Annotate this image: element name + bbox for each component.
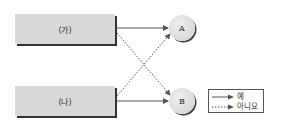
diagram-canvas: (가) (나) A B 예 아니요: [0, 0, 284, 126]
node-a: A: [169, 15, 195, 41]
legend-row-solid: 예: [212, 92, 244, 101]
box-ga: (가): [15, 14, 115, 44]
box-ga-label: (가): [58, 24, 71, 35]
node-a-label: A: [179, 24, 185, 33]
solid-arrow-icon: [212, 94, 234, 100]
legend: 예 아니요: [208, 89, 264, 113]
legend-row-dotted: 아니요: [212, 102, 258, 111]
node-b-label: B: [179, 97, 185, 106]
legend-dotted-label: 아니요: [237, 102, 258, 111]
edge-na-A-dotted: [117, 34, 170, 96]
edge-ga-B-dotted: [117, 33, 170, 95]
node-b: B: [169, 88, 195, 114]
box-na: (나): [15, 86, 115, 116]
box-na-label: (나): [58, 96, 71, 107]
dotted-arrow-icon: [212, 104, 234, 110]
legend-solid-label: 예: [237, 92, 244, 101]
